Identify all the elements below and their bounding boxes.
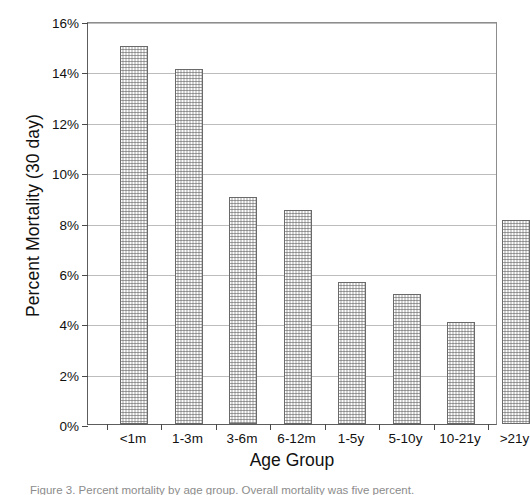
- y-axis-tick: [82, 376, 88, 377]
- y-axis-tick-label: 12%: [52, 116, 79, 131]
- gridline: [88, 174, 496, 175]
- gridline: [88, 73, 496, 74]
- y-axis-tick: [82, 124, 88, 125]
- figure-caption: Figure 3. Percent mortality by age group…: [30, 484, 490, 495]
- bar: [120, 46, 148, 424]
- y-axis-tick-label: 8%: [59, 217, 79, 232]
- y-axis-title: Percent Mortality (30 day): [23, 36, 44, 396]
- plot-area: 0%2%4%6%8%10%12%14%16%: [87, 22, 497, 425]
- gridline: [88, 124, 496, 125]
- y-axis-tick-label: 6%: [59, 267, 79, 282]
- y-axis-tick: [82, 174, 88, 175]
- x-axis-tick: [107, 424, 108, 430]
- bar: [502, 220, 530, 424]
- y-axis-tick: [82, 73, 88, 74]
- bar: [284, 210, 312, 424]
- y-axis-tick: [82, 225, 88, 226]
- x-axis-tick: [379, 424, 380, 430]
- bar: [338, 282, 366, 424]
- y-axis-tick-label: 2%: [59, 368, 79, 383]
- x-axis-tick-label: 10-21y: [439, 431, 480, 446]
- bar: [229, 197, 257, 424]
- y-axis-tick-label: 0%: [59, 419, 79, 434]
- x-axis-tick-label: 5-10y: [389, 431, 423, 446]
- x-axis-tick-label: 1-3m: [172, 431, 203, 446]
- bar: [175, 69, 203, 424]
- y-axis-tick-label: 10%: [52, 167, 79, 182]
- x-axis-tick-label: <1m: [120, 431, 147, 446]
- x-axis-tick-label: >21y: [500, 431, 530, 446]
- x-axis-tick: [270, 424, 271, 430]
- gridline: [88, 23, 496, 24]
- x-axis-tick: [216, 424, 217, 430]
- x-axis-tick: [325, 424, 326, 430]
- y-axis-tick: [82, 23, 88, 24]
- y-axis-tick: [82, 275, 88, 276]
- x-axis-tick-label: 3-6m: [227, 431, 258, 446]
- y-axis-tick-label: 14%: [52, 66, 79, 81]
- y-axis-tick-label: 4%: [59, 318, 79, 333]
- x-axis-title: Age Group: [87, 450, 497, 471]
- x-axis-tick: [488, 424, 489, 430]
- x-axis-tick: [161, 424, 162, 430]
- y-axis-tick-label: 16%: [52, 16, 79, 31]
- y-axis-tick: [82, 325, 88, 326]
- x-axis-tick-label: 1-5y: [338, 431, 364, 446]
- y-axis-tick: [82, 426, 88, 427]
- bar: [393, 294, 421, 424]
- bar: [447, 322, 475, 424]
- x-axis-tick-label: 6-12m: [277, 431, 315, 446]
- x-axis-tick: [434, 424, 435, 430]
